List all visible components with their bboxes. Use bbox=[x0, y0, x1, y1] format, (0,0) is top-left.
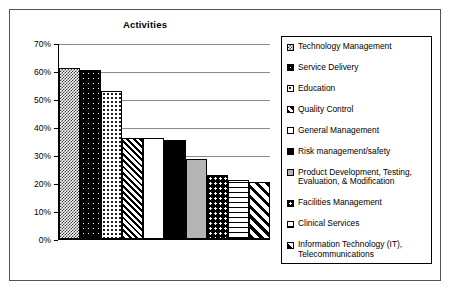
y-axis-tick-mark bbox=[54, 240, 58, 241]
legend-swatch-icon bbox=[287, 64, 294, 71]
legend-swatch-icon bbox=[287, 44, 294, 51]
bar bbox=[80, 70, 101, 239]
legend-item[interactable]: Service Delivery bbox=[287, 63, 427, 72]
legend-swatch-icon bbox=[287, 242, 294, 249]
legend-item-label: General Management bbox=[298, 126, 379, 135]
bar bbox=[207, 175, 228, 239]
legend-item-label: Risk management/safety bbox=[298, 147, 390, 156]
legend-swatch-icon bbox=[287, 148, 294, 155]
y-axis-tick-label: 60% bbox=[34, 67, 51, 77]
chart-figure: Activities 70%60%50%40%30%20%10%0% Techn… bbox=[9, 9, 441, 281]
legend-item[interactable]: Information Technology (IT), Telecommuni… bbox=[287, 240, 427, 259]
y-axis-tick-label: 30% bbox=[34, 151, 51, 161]
legend-item[interactable]: Facilities Management bbox=[287, 198, 427, 207]
bar bbox=[101, 91, 122, 239]
legend-swatch-icon bbox=[287, 85, 294, 92]
bar bbox=[164, 140, 185, 239]
y-axis-tick-label: 70% bbox=[34, 39, 51, 49]
chart-title: Activities bbox=[10, 19, 280, 30]
legend-item-label: Clinical Services bbox=[298, 219, 359, 228]
legend-swatch-icon bbox=[287, 127, 294, 134]
y-axis-tick-label: 20% bbox=[34, 179, 51, 189]
legend-item[interactable]: Clinical Services bbox=[287, 219, 427, 228]
y-axis: 70%60%50%40%30%20%10%0% bbox=[22, 44, 54, 240]
legend-item[interactable]: Risk management/safety bbox=[287, 147, 427, 156]
bar bbox=[249, 182, 270, 239]
plot-wrapper: 70%60%50%40%30%20%10%0% bbox=[22, 44, 272, 262]
legend-swatch-icon bbox=[287, 106, 294, 113]
legend-item-label: Quality Control bbox=[298, 105, 353, 114]
bar bbox=[228, 180, 249, 239]
y-axis-tick-label: 40% bbox=[34, 123, 51, 133]
bar bbox=[143, 138, 164, 239]
legend-item[interactable]: General Management bbox=[287, 126, 427, 135]
legend-item-label: Service Delivery bbox=[298, 63, 359, 72]
legend-item[interactable]: Product Development, Testing, Evaluation… bbox=[287, 168, 427, 187]
legend-item-label: Product Development, Testing, Evaluation… bbox=[298, 168, 412, 187]
bar bbox=[59, 68, 80, 239]
y-axis-tick-label: 10% bbox=[34, 207, 51, 217]
bar bbox=[186, 159, 207, 239]
y-axis-tick-label: 50% bbox=[34, 95, 51, 105]
legend-item-label: Information Technology (IT), Telecommuni… bbox=[298, 240, 402, 259]
legend-item-label: Education bbox=[298, 84, 335, 93]
chart-legend: Technology ManagementService DeliveryEdu… bbox=[281, 36, 432, 264]
legend-item-label: Technology Management bbox=[298, 42, 392, 51]
legend-swatch-icon bbox=[287, 221, 294, 228]
legend-swatch-icon bbox=[287, 169, 294, 176]
bar-group bbox=[59, 44, 270, 239]
legend-item[interactable]: Technology Management bbox=[287, 42, 427, 51]
plot-area bbox=[58, 44, 270, 240]
legend-item[interactable]: Education bbox=[287, 84, 427, 93]
bar bbox=[122, 138, 143, 239]
legend-item-label: Facilities Management bbox=[298, 198, 382, 207]
legend-swatch-icon bbox=[287, 200, 294, 207]
legend-item[interactable]: Quality Control bbox=[287, 105, 427, 114]
y-axis-tick-label: 0% bbox=[39, 235, 51, 245]
